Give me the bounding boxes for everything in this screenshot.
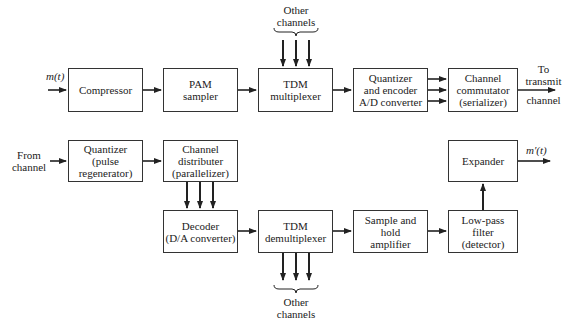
expander-block: Expander bbox=[448, 140, 518, 182]
channel-commutator-block: Channel commutator (serializer) bbox=[448, 68, 518, 112]
tx-other-channels-label: Other channels bbox=[266, 4, 326, 28]
decoder-block: Decoder (D/A converter) bbox=[163, 210, 238, 253]
rx-input-label: From channel bbox=[8, 149, 50, 173]
sample-hold-block: Sample and hold amplifier bbox=[353, 210, 428, 253]
quantizer-encoder-block: Quantizer and encoder A/D converter bbox=[353, 68, 428, 112]
output-signal-label: m′(t) bbox=[526, 144, 547, 156]
channel-distributer-block: Channel distributer (parallelizer) bbox=[163, 140, 238, 182]
tdm-demultiplexer-block: TDM demultiplexer bbox=[258, 210, 333, 253]
pam-sampler-block: PAM sampler bbox=[163, 68, 238, 112]
block-diagram: m(t) Compressor PAM sampler TDM multiple… bbox=[0, 0, 567, 328]
tdm-multiplexer-block: TDM multiplexer bbox=[258, 68, 333, 112]
rx-other-channels-label: Other channels bbox=[266, 296, 326, 320]
input-signal-label: m(t) bbox=[46, 70, 64, 82]
compressor-block: Compressor bbox=[68, 68, 143, 112]
low-pass-filter-block: Low-pass filter (detector) bbox=[448, 210, 518, 253]
tx-output-label-bottom: channel bbox=[520, 94, 567, 106]
tx-output-label-top: To transmit bbox=[520, 63, 567, 87]
quantizer-regenerator-block: Quantizer (pulse regenerator) bbox=[68, 140, 143, 182]
